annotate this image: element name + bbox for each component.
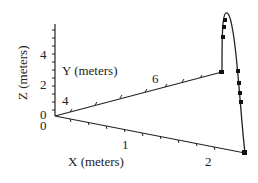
x-axis-label: X (meters) <box>68 154 124 169</box>
z-axis: 4 2 0 Z (meters) <box>15 24 55 122</box>
x-axis: 0 1 2 X (meters) <box>40 116 245 169</box>
y-tick-4: 4 <box>62 93 69 108</box>
3d-trajectory-plot: 4 2 0 Z (meters) 4 6 Y (meters) <box>0 0 258 183</box>
y-axis-label: Y (meters) <box>62 63 117 78</box>
y-tick-6: 6 <box>152 71 159 86</box>
x-tick-2: 2 <box>205 154 212 169</box>
z-tick-2: 2 <box>40 77 47 92</box>
x-tick-0: 0 <box>40 118 47 133</box>
y-axis: 4 6 Y (meters) <box>55 63 222 116</box>
x-tick-1: 1 <box>122 137 129 152</box>
z-tick-4: 4 <box>40 47 47 62</box>
z-axis-label: Z (meters) <box>15 45 30 100</box>
trajectory-series <box>219 13 247 155</box>
